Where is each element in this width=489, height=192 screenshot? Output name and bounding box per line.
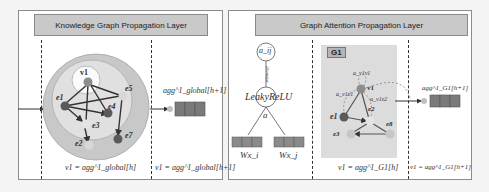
node-e7-label: e7 <box>125 131 133 140</box>
leakyrelu-label: LeakyReLU <box>245 91 292 102</box>
wx-j-label: Wx_j <box>279 150 298 160</box>
g1-node-v1-label: v1 <box>367 84 374 92</box>
wx-i-label: Wx_i <box>240 150 259 160</box>
g1-node-e1-label: e1 <box>330 112 338 121</box>
a-weight-label: a <box>263 110 268 120</box>
node-e3-label: e3 <box>92 121 100 130</box>
node-e4-label: e4 <box>108 102 116 111</box>
node-e5-label: e5 <box>125 84 133 93</box>
attn-v1e2-label: a_v1e2 <box>370 96 387 102</box>
softmax-label: softmax(j) <box>264 66 269 82</box>
node-v1-label: v1 <box>80 68 88 77</box>
right-bottom-eq-1: v1 = agg^1_G1[h] <box>338 163 398 172</box>
right-bottom-eq-2: v1 = agg^1_G1[h+1] <box>410 163 471 171</box>
node-e2-label: e2 <box>75 139 83 148</box>
left-output-label: agg^1_global[h+1] <box>163 86 226 95</box>
g1-node-e3-label: e3 <box>333 130 340 138</box>
left-bottom-eq-1: v1 = agg^1_global[h] <box>65 163 136 172</box>
attention-coef-label: a_ij <box>259 46 271 55</box>
attn-v1e1-label: a_v1e1 <box>336 91 353 97</box>
right-output-label: agg^1_G1[h+1] <box>422 84 468 92</box>
g1-node-e2-label: e2 <box>368 105 375 113</box>
left-bottom-eq-2: v1 = agg^1_global[h+1] <box>155 163 235 172</box>
node-e1-label: e1 <box>56 93 64 102</box>
g1-node-e8-label: e8 <box>386 120 393 128</box>
attn-v1v1-label: a_v1v1 <box>353 70 370 76</box>
